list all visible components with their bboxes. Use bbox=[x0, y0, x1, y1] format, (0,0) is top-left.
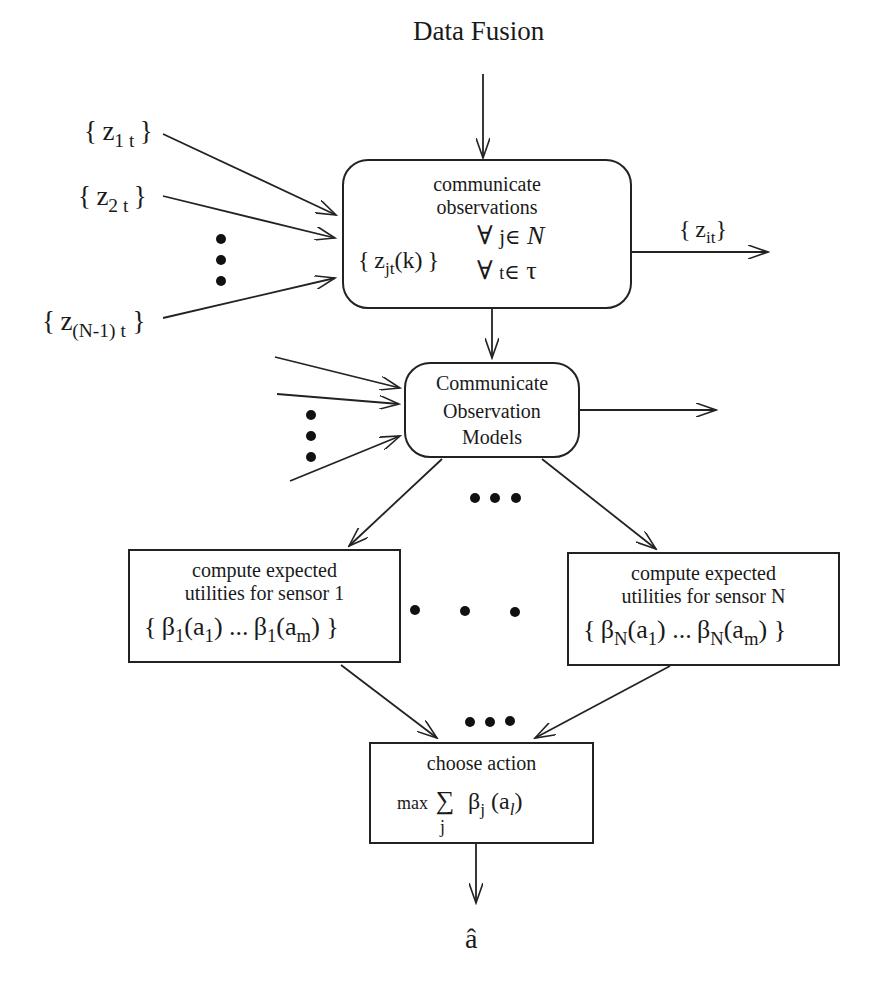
quantifier-j: ∀ j∈ N bbox=[477, 223, 544, 249]
input-z1t: { z1 t } bbox=[84, 118, 153, 145]
choose-action-label: choose action bbox=[371, 753, 592, 773]
box-label-line1: communicate bbox=[344, 174, 630, 194]
sensor1-label-line2: utilities for sensor 1 bbox=[130, 583, 399, 603]
ellipsis-dot bbox=[216, 234, 226, 244]
output-action-label: â bbox=[465, 925, 477, 953]
models-label-line2: Observation bbox=[406, 401, 578, 421]
ellipsis-dot bbox=[511, 493, 521, 503]
ellipsis-dot bbox=[306, 410, 316, 420]
ellipsis-dot bbox=[470, 493, 480, 503]
input-z2t: { z2 t } bbox=[78, 183, 147, 210]
sensorN-label-line2: utilities for sensor N bbox=[569, 586, 838, 606]
ellipsis-dot bbox=[216, 276, 226, 286]
communicate-observations-box: communicate observations { zjt(k) } ∀ j∈… bbox=[342, 159, 632, 309]
ellipsis-dot bbox=[490, 493, 500, 503]
quantifier-t: ∀ t∈ τ bbox=[477, 258, 537, 284]
data-fusion-label: Data Fusion bbox=[413, 18, 544, 45]
choose-action-box: choose action max ∑ j βj (al) bbox=[369, 742, 594, 844]
summation-symbol: ∑ j bbox=[434, 788, 456, 814]
communicate-models-box: Communicate Observation Models bbox=[404, 362, 580, 458]
ellipsis-dot bbox=[306, 431, 316, 441]
models-label-line1: Communicate bbox=[406, 373, 578, 393]
sensorN-label-line1: compute expected bbox=[569, 563, 838, 583]
sensor1-label-line1: compute expected bbox=[130, 560, 399, 580]
ellipsis-dot bbox=[510, 607, 520, 617]
sensor-1-utilities-box: compute expected utilities for sensor 1 … bbox=[128, 549, 401, 663]
box-label-line2: observations bbox=[344, 197, 630, 217]
ellipsis-dot bbox=[460, 606, 470, 616]
choose-action-formula: max ∑ j βj (al) bbox=[397, 788, 523, 814]
ellipsis-dot bbox=[306, 452, 316, 462]
sensorN-utility-set: { βN(a1) ... βN(am) } bbox=[583, 617, 786, 643]
input-zN-1t: { z(N-1) t } bbox=[42, 308, 146, 335]
output-zit: { zit} bbox=[679, 217, 727, 241]
models-label-line3: Models bbox=[406, 427, 578, 447]
sensor1-utility-set: { β1(a1) ... β1(am) } bbox=[144, 614, 339, 640]
observation-set: { zjt(k) } bbox=[358, 248, 439, 272]
sensor-N-utilities-box: compute expected utilities for sensor N … bbox=[567, 552, 840, 666]
ellipsis-dot bbox=[410, 605, 420, 615]
ellipsis-dot bbox=[465, 717, 475, 727]
ellipsis-dot bbox=[505, 716, 515, 726]
ellipsis-dot bbox=[216, 255, 226, 265]
ellipsis-dot bbox=[485, 717, 495, 727]
